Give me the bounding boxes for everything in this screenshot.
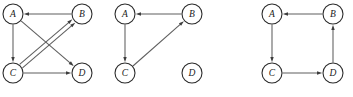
arrowhead-C-to-D [317, 71, 322, 74]
edge-C-to-B [20, 22, 70, 65]
arrowhead-D-to-B [331, 25, 334, 30]
edge-C-to-B [133, 24, 181, 66]
node-label-A: A [268, 9, 275, 19]
node-B-graph-2[interactable]: B [182, 4, 202, 24]
node-C-graph-1[interactable]: C [3, 63, 23, 83]
node-B-graph-1[interactable]: B [72, 4, 92, 24]
node-D-graph-1[interactable]: D [72, 63, 92, 83]
edges-layer [11, 12, 334, 74]
arrowhead-C-to-D [66, 71, 71, 74]
graph-3-edges [270, 12, 334, 74]
arrowhead-A-to-C [270, 57, 273, 62]
arrowhead-B-to-A [24, 12, 29, 15]
arrowhead-B-to-A [136, 12, 141, 15]
arrowhead-B-to-A [283, 12, 288, 15]
node-label-C: C [269, 68, 276, 78]
node-label-B: B [79, 9, 85, 19]
node-label-D: D [188, 68, 196, 78]
edge-C-to-B [22, 25, 72, 68]
node-label-C: C [10, 68, 17, 78]
directed-graph-figure: ABCDABCDABCD [0, 0, 353, 97]
node-label-C: C [122, 68, 129, 78]
nodes-layer: ABCDABCDABCD [3, 4, 343, 83]
node-A-graph-3[interactable]: A [262, 4, 282, 24]
graph-1-edges [11, 12, 75, 74]
node-label-D: D [329, 68, 337, 78]
node-label-A: A [121, 9, 128, 19]
node-C-graph-2[interactable]: C [115, 63, 135, 83]
node-D-graph-3[interactable]: D [323, 63, 343, 83]
node-D-graph-2[interactable]: D [182, 63, 202, 83]
node-label-A: A [9, 9, 16, 19]
arrowhead-A-to-C [123, 57, 126, 62]
node-C-graph-3[interactable]: C [262, 63, 282, 83]
node-A-graph-2[interactable]: A [115, 4, 135, 24]
node-A-graph-1[interactable]: A [3, 4, 23, 24]
node-label-B: B [189, 9, 195, 19]
arrowhead-A-to-C [11, 57, 14, 62]
node-B-graph-3[interactable]: B [323, 4, 343, 24]
graph-3-nodes: ABCD [262, 4, 343, 83]
node-label-D: D [78, 68, 86, 78]
figure-root: ABCDABCDABCD [0, 0, 353, 97]
node-label-B: B [330, 9, 336, 19]
